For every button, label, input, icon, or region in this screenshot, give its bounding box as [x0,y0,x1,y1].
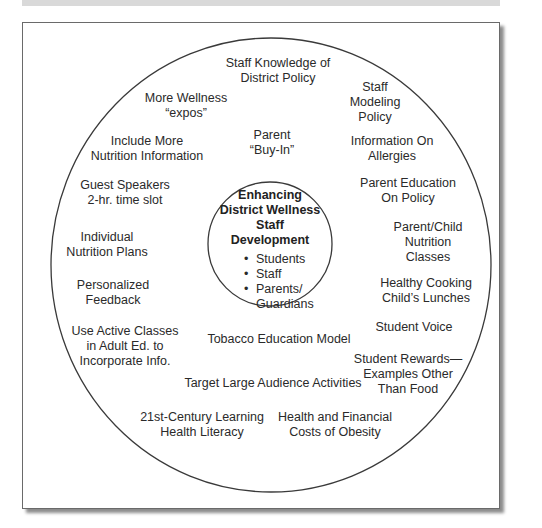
item-student-rewards: Student Rewards— Examples Other Than Foo… [354,352,462,397]
item-line: Examples Other [354,367,462,382]
item-line: Use Active Classes [72,324,179,339]
item-line: Nutrition [394,235,463,250]
item-21st-century-learning: 21st-Century Learning Health Literacy [140,410,264,440]
audience-parents: Parents/ [244,282,314,297]
item-line: in Adult Ed. to [72,339,179,354]
item-line: Feedback [77,293,149,308]
audience-list: Students Staff Parents/ Guardians [244,252,314,312]
item-active-classes-adult-ed: Use Active Classes in Adult Ed. to Incor… [72,324,179,369]
item-line: Include More [91,134,204,149]
audience-students: Students [244,252,314,267]
item-line: “Buy-In” [250,143,294,158]
item-line: Information On [351,134,434,149]
item-parent-child-nutrition: Parent/Child Nutrition Classes [394,220,463,265]
item-line: Parent/Child [394,220,463,235]
item-line: Costs of Obesity [278,425,392,440]
item-target-large-audience: Target Large Audience Activities [184,376,361,391]
item-line: Policy [350,110,401,125]
item-line: Tobacco Education Model [207,332,350,347]
item-line: Staff [350,80,401,95]
item-line: More Wellness [145,91,227,106]
item-line: 2-hr. time slot [80,193,170,208]
item-line: Staff Knowledge of [226,56,331,71]
item-line: Nutrition Information [91,149,204,164]
item-line: Incorporate Info. [72,354,179,369]
item-student-voice: Student Voice [375,320,452,335]
item-line: 21st-Century Learning [140,410,264,425]
item-line: Student Rewards— [354,352,462,367]
center-title-line: Staff [220,218,321,233]
item-line: Parent [250,128,294,143]
item-line: Student Voice [375,320,452,335]
item-line: Nutrition Plans [66,245,147,260]
item-line: Parent Education [360,176,456,191]
item-more-wellness-expos: More Wellness “expos” [145,91,227,121]
item-staff-knowledge: Staff Knowledge of District Policy [226,56,331,86]
item-line: Individual [66,230,147,245]
item-line: Healthy Cooking [380,276,472,291]
item-personalized-feedback: Personalized Feedback [77,278,149,308]
item-line: Target Large Audience Activities [184,376,361,391]
item-healthy-cooking: Healthy Cooking Child’s Lunches [380,276,472,306]
center-title-line: Enhancing [220,188,321,203]
audience-staff: Staff [244,267,314,282]
item-line: “expos” [145,106,227,121]
item-line: Classes [394,250,463,265]
item-individual-nutrition-plans: Individual Nutrition Plans [66,230,147,260]
item-parent-education-policy: Parent Education On Policy [360,176,456,206]
item-tobacco-education: Tobacco Education Model [207,332,350,347]
item-parent-buy-in: Parent “Buy-In” [250,128,294,158]
item-line: Child’s Lunches [380,291,472,306]
item-line: Guest Speakers [80,178,170,193]
center-title-line: District Wellness [220,203,321,218]
item-staff-modeling: Staff Modeling Policy [350,80,401,125]
item-line: Personalized [77,278,149,293]
item-include-nutrition-info: Include More Nutrition Information [91,134,204,164]
item-line: Health and Financial [278,410,392,425]
item-line: District Policy [226,71,331,86]
item-line: Than Food [354,382,462,397]
item-health-financial-costs: Health and Financial Costs of Obesity [278,410,392,440]
item-line: Modeling [350,95,401,110]
audience-guardians-cont: Guardians [244,297,314,312]
item-line: On Policy [360,191,456,206]
item-information-on-allergies: Information On Allergies [351,134,434,164]
item-guest-speakers: Guest Speakers 2-hr. time slot [80,178,170,208]
item-line: Allergies [351,149,434,164]
center-title-line: Development [220,233,321,248]
center-title: Enhancing District Wellness Staff Develo… [220,188,321,248]
item-line: Health Literacy [140,425,264,440]
